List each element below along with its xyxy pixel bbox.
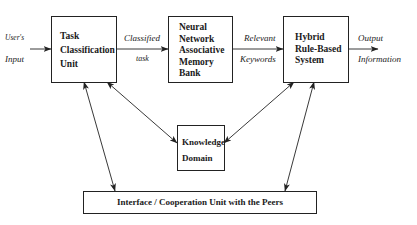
user-input-label-top: User's bbox=[5, 33, 24, 43]
user-input-label-bottom: Input bbox=[5, 54, 24, 64]
relevant-label-bottom: Keywords bbox=[240, 54, 276, 64]
classified-label-bottom: task bbox=[136, 54, 149, 64]
output-label-top: Output bbox=[358, 33, 383, 43]
classified-label-top: Classified bbox=[124, 33, 160, 43]
task-knowledge-link bbox=[107, 82, 177, 143]
relevant-label-top: Relevant bbox=[244, 33, 275, 43]
neural-network-memory-label: Neural Network Associative Memory Bank bbox=[179, 22, 224, 80]
hybrid-rule-based-system-label: Hybrid Rule-Based System bbox=[295, 32, 341, 67]
interface-cooperation-unit-box: Interface / Cooperation Unit with the Pe… bbox=[83, 191, 317, 214]
knowledge-domain-label: Knowledge Domain bbox=[182, 134, 225, 166]
task-interface-link bbox=[84, 82, 115, 191]
output-label-bottom: Information bbox=[358, 54, 401, 64]
task-classification-unit-label: Task Classification Unit bbox=[60, 29, 115, 71]
hybrid-knowledge-link bbox=[224, 82, 294, 143]
interface-cooperation-unit-label: Interface / Cooperation Unit with the Pe… bbox=[84, 197, 316, 207]
task-classification-unit-box: Task Classification Unit bbox=[51, 16, 117, 83]
hybrid-interface-link bbox=[285, 82, 314, 191]
hybrid-rule-based-system-box: Hybrid Rule-Based System bbox=[283, 16, 349, 83]
knowledge-domain-box: Knowledge Domain bbox=[177, 125, 225, 171]
neural-network-memory-box: Neural Network Associative Memory Bank bbox=[168, 16, 233, 83]
